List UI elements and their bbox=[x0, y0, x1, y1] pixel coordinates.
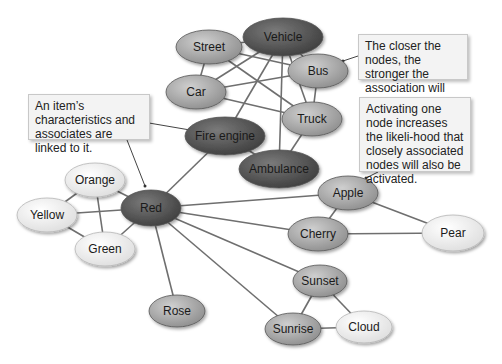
callout-pointer-linked-1 bbox=[127, 140, 145, 186]
node-label: Sunset bbox=[301, 274, 339, 288]
node-label: Cherry bbox=[300, 227, 336, 241]
node-vehicle: Vehicle bbox=[243, 18, 323, 56]
node-fire_engine: Fire engine bbox=[185, 117, 265, 155]
node-label: Fire engine bbox=[195, 129, 255, 143]
callout-closer: The closer the nodes, the stronger the a… bbox=[358, 34, 468, 80]
node-label: Car bbox=[186, 85, 205, 99]
node-car: Car bbox=[166, 75, 226, 109]
callout-activating: Activating one node increases the likeli… bbox=[359, 97, 471, 172]
callout-pointer-closer-0 bbox=[343, 56, 358, 61]
node-orange: Orange bbox=[65, 163, 125, 197]
node-red: Red bbox=[121, 190, 181, 226]
node-pear: Pear bbox=[422, 215, 484, 251]
node-cloud: Cloud bbox=[336, 311, 392, 343]
node-label: Ambulance bbox=[249, 162, 309, 176]
node-label: Rose bbox=[163, 304, 191, 318]
node-label: Sunrise bbox=[273, 322, 314, 336]
node-label: Cloud bbox=[348, 320, 379, 334]
node-sunrise: Sunrise bbox=[265, 313, 321, 345]
node-truck: Truck bbox=[282, 102, 342, 136]
node-label: Orange bbox=[75, 173, 115, 187]
node-ambulance: Ambulance bbox=[239, 150, 319, 188]
node-label: Green bbox=[88, 242, 121, 256]
node-label: Apple bbox=[333, 186, 364, 200]
callout-pointer-linked-0 bbox=[149, 123, 190, 130]
node-bus: Bus bbox=[288, 54, 348, 88]
edge-vehicle-ambulance bbox=[279, 37, 283, 169]
node-cherry: Cherry bbox=[288, 217, 348, 251]
node-sunset: Sunset bbox=[293, 265, 347, 297]
node-rose: Rose bbox=[149, 295, 205, 327]
node-label: Bus bbox=[308, 64, 329, 78]
node-label: Truck bbox=[297, 112, 328, 126]
node-label: Red bbox=[140, 201, 162, 215]
node-yellow: Yellow bbox=[17, 198, 77, 232]
node-label: Vehicle bbox=[264, 30, 303, 44]
callout-linked: An item’s characteristics and associates… bbox=[28, 94, 150, 140]
callout-pointer-tip bbox=[144, 185, 147, 188]
node-label: Pear bbox=[440, 226, 465, 240]
node-label: Street bbox=[193, 40, 226, 54]
node-label: Yellow bbox=[30, 208, 65, 222]
node-street: Street bbox=[176, 30, 242, 64]
node-green: Green bbox=[75, 232, 135, 266]
